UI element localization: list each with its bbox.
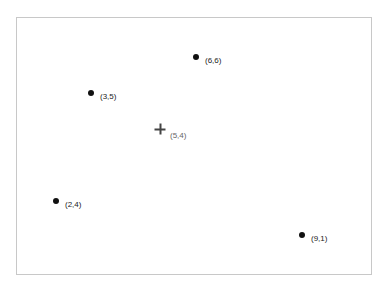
centroid-plus-icon: [155, 124, 166, 135]
data-point-6-6: [193, 54, 199, 60]
data-point-3-5: [88, 90, 94, 96]
data-point-9-1: [299, 232, 305, 238]
point-label-3-5: (3,5): [100, 92, 116, 101]
centroid-label: (5,4): [170, 131, 186, 140]
data-point-2-4: [53, 198, 59, 204]
point-label-6-6: (6,6): [205, 56, 221, 65]
point-label-9-1: (9,1): [311, 234, 327, 243]
point-label-2-4: (2,4): [65, 200, 81, 209]
